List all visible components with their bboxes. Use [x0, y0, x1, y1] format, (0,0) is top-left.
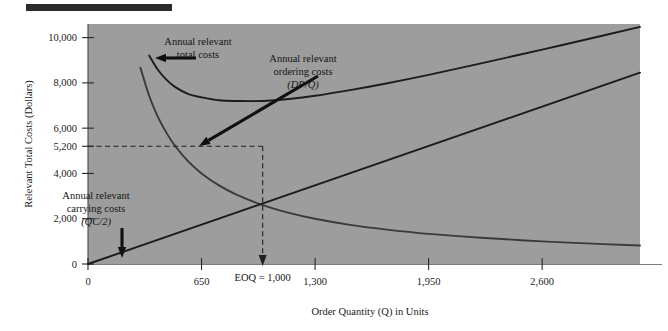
figure-container: 02,0004,0005,2006,0008,00010,000 06501,3…: [0, 0, 668, 331]
y-tick-label: 10,000: [48, 32, 77, 43]
x-tick-label: 0: [85, 276, 90, 287]
x-tick-label: 1,300: [303, 276, 327, 287]
y-axis-ticks: 02,0004,0005,2006,0008,00010,000: [48, 32, 94, 269]
y-tick-label: 0: [72, 259, 77, 270]
x-axis-title: Order Quantity (Q) in Units: [311, 306, 428, 318]
x-tick-label: 2,600: [530, 276, 554, 287]
y-tick-label: 6,000: [53, 123, 77, 134]
x-tick-label: 1,950: [417, 276, 441, 287]
eoq-marker-label: EOQ = 1,000: [234, 272, 290, 283]
eoq-cost-chart: 02,0004,0005,2006,0008,00010,000 06501,3…: [0, 0, 668, 331]
x-tick-label: 650: [194, 276, 210, 287]
y-tick-label: 8,000: [53, 77, 77, 88]
plot-area-background: [88, 24, 640, 264]
y-tick-label: 2,000: [53, 213, 77, 224]
y-tick-label: 4,000: [53, 168, 77, 179]
y-axis-title: Relevant Total Costs (Dollars): [23, 80, 35, 208]
y-tick-label: 5,200: [53, 141, 77, 152]
